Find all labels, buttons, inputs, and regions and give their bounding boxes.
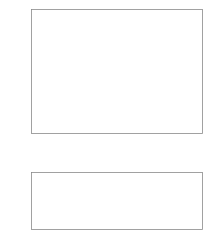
scatter-plot-frame bbox=[32, 10, 203, 134]
residual-panel bbox=[32, 173, 203, 230]
plot-canvas bbox=[0, 0, 214, 238]
scatter-panel bbox=[32, 10, 203, 134]
residual-plot-frame bbox=[32, 173, 203, 230]
regression-diagnostic-figure bbox=[0, 0, 214, 238]
